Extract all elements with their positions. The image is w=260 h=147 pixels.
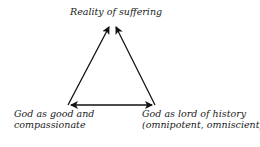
arrow-left-to-top xyxy=(68,27,109,105)
node-label: Reality of suffering xyxy=(70,6,162,17)
node-reality-of-suffering: Reality of suffering xyxy=(70,6,162,17)
arrow-right-to-top xyxy=(116,27,155,105)
node-label-line2: (omnipotent, omniscient) xyxy=(142,119,260,130)
node-label-line1: God as good and xyxy=(14,108,94,119)
node-god-good-compassionate: God as good and compassionate xyxy=(14,108,94,130)
node-label-line1: God as lord of history xyxy=(142,108,260,119)
node-label-line2: compassionate xyxy=(14,119,94,130)
node-god-lord-of-history: God as lord of history (omnipotent, omni… xyxy=(142,108,260,130)
